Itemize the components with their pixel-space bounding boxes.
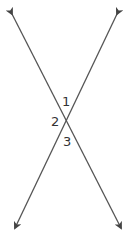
angle-2-label: 2 xyxy=(51,114,59,129)
angle-1-label: 1 xyxy=(62,94,70,109)
line-b xyxy=(15,14,117,228)
angle-3-label: 3 xyxy=(63,134,71,149)
intersecting-lines-diagram: 1 2 3 xyxy=(0,0,129,237)
